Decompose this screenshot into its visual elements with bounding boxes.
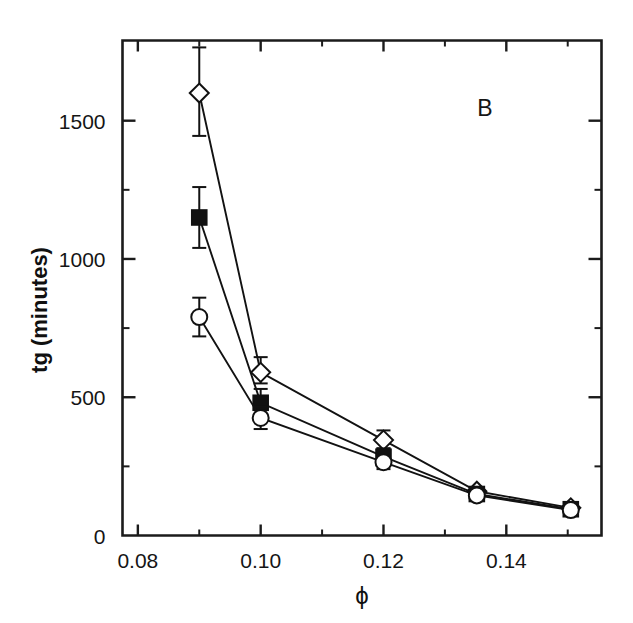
- x-tick-label: 0.08: [117, 549, 158, 572]
- x-axis-label-text: ϕ: [355, 582, 368, 609]
- y-tick-label: 1500: [59, 110, 106, 133]
- marker-square-filled: [192, 210, 207, 225]
- y-tick-label: 1000: [59, 248, 106, 271]
- scatter-line-chart: 0.080.100.120.14050010001500 tg (minutes…: [0, 0, 633, 623]
- marker-circle-open: [563, 502, 579, 518]
- y-axis-label-text: tg (minutes): [27, 247, 52, 373]
- y-axis-title: tg (minutes): [27, 247, 52, 373]
- y-tick-label: 500: [70, 386, 105, 409]
- figure-panel-b: 0.080.100.120.14050010001500 tg (minutes…: [0, 0, 633, 623]
- marker-circle-open: [469, 487, 485, 503]
- panel-label-text: B: [477, 95, 492, 121]
- marker-circle-open: [191, 309, 207, 325]
- marker-circle-open: [375, 454, 391, 470]
- y-tick-label: 0: [94, 525, 106, 548]
- x-tick-label: 0.14: [486, 549, 527, 572]
- x-tick-label: 0.10: [240, 549, 281, 572]
- marker-circle-open: [253, 410, 269, 426]
- x-tick-label: 0.12: [363, 549, 404, 572]
